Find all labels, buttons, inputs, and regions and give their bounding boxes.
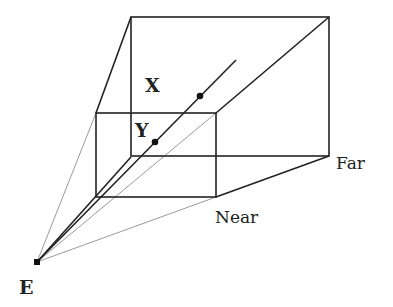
eye-guide-lines bbox=[37, 113, 216, 262]
far-plane bbox=[131, 17, 329, 156]
far-plane-label: Far bbox=[336, 153, 366, 173]
eye-label: E bbox=[19, 276, 33, 298]
point-y-label: Y bbox=[134, 119, 149, 141]
point-x-dot bbox=[197, 93, 204, 100]
near-plane-label: Near bbox=[215, 207, 259, 227]
point-y-dot bbox=[152, 139, 159, 146]
view-frustum-diagram: X Y E Near Far bbox=[0, 0, 393, 307]
eye-point-marker bbox=[34, 259, 40, 265]
view-ray bbox=[37, 60, 236, 262]
point-x-label: X bbox=[145, 74, 160, 96]
